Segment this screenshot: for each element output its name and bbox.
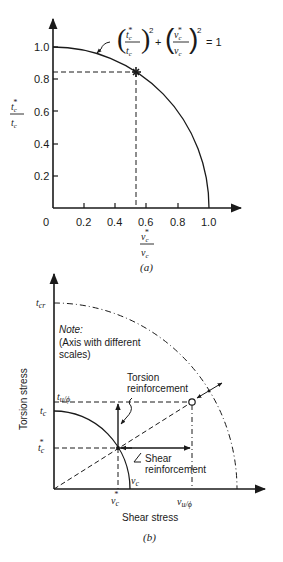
- torsion-annotation-line-2: reinforcement: [127, 383, 188, 394]
- caption-a: (a): [140, 261, 153, 274]
- y-axis-title-b: Torsion stress: [18, 368, 29, 430]
- interaction-curve-a: [53, 47, 209, 208]
- equation: ( tc* tc ) 2 + ( vc* vc ) 2 = 1: [117, 23, 222, 58]
- t-cr-label: tcr: [36, 297, 46, 310]
- torsion-annotation-line-1: Torsion: [127, 372, 159, 383]
- svg-text:tc*: tc*: [38, 438, 45, 455]
- svg-text:tu/ϕ: tu/ϕ: [57, 391, 70, 404]
- target-point: [189, 399, 195, 405]
- v-u-phi-label: vu/ϕ: [177, 496, 192, 509]
- v-c-star-label: vc*: [111, 490, 119, 508]
- t-c-label: tc: [40, 405, 47, 418]
- shear-leader: [134, 453, 141, 462]
- y-tick-label: 1.0: [34, 41, 49, 53]
- x-tick-label: 0.8: [170, 216, 185, 228]
- x-axis-title-b: Shear stress: [122, 512, 178, 523]
- v-c-label: vc: [131, 475, 139, 488]
- svg-text:+: +: [155, 36, 161, 48]
- shear-annotation-line-2: reinforcement: [145, 464, 206, 475]
- caption-b: (b): [143, 531, 156, 544]
- chart-a: 1.0 0.8 0.6 0.4 0.2 0 0.2 0.4 0.6 0.8 1.…: [10, 19, 241, 274]
- svg-text:vc*: vc*: [174, 26, 182, 42]
- svg-text:vc: vc: [141, 247, 149, 260]
- x-tick-label: 0.4: [107, 216, 122, 228]
- svg-text:tc: tc: [40, 405, 47, 418]
- note-line-1: (Axis with different: [59, 337, 141, 348]
- svg-text:2: 2: [197, 26, 202, 35]
- svg-text:vc*: vc*: [111, 490, 119, 508]
- svg-text:vc: vc: [174, 45, 182, 58]
- x-tick-label: 0.6: [138, 216, 153, 228]
- svg-text:tc*: tc*: [11, 98, 18, 114]
- svg-text:= 1: = 1: [206, 36, 222, 48]
- x-tick-label: 0: [43, 216, 49, 228]
- figure: 1.0 0.8 0.6 0.4 0.2 0 0.2 0.4 0.6 0.8 1.…: [0, 0, 283, 562]
- y-tick-label: 0.8: [34, 73, 49, 85]
- star-marker: [132, 67, 141, 77]
- svg-text:tcr: tcr: [36, 297, 46, 310]
- chart-b: tcr tu/ϕ tc tc* vc* vc vu/ϕ Note: (Axis …: [18, 274, 265, 544]
- t-u-phi-label: tu/ϕ: [57, 391, 70, 404]
- x-axis-label-a: vc* vc: [140, 228, 154, 260]
- svg-text:vu/ϕ: vu/ϕ: [177, 496, 192, 509]
- y-tick-label: 0.2: [34, 170, 49, 182]
- y-axis-label-a: tc* tc: [10, 98, 24, 130]
- arc-point: [208, 390, 211, 393]
- note-title: Note:: [59, 324, 83, 335]
- svg-text:tc*: tc*: [126, 26, 133, 42]
- intersection-point: [116, 446, 120, 450]
- svg-text:tc: tc: [11, 117, 18, 130]
- equation-leader: [97, 42, 110, 53]
- x-tick-label: 1.0: [201, 216, 216, 228]
- y-tick-label: 0.6: [34, 106, 49, 118]
- svg-text:vc*: vc*: [141, 228, 149, 244]
- t-c-star-label: tc*: [38, 438, 45, 455]
- y-tick-label: 0.4: [34, 138, 49, 150]
- svg-text:(: (: [117, 23, 126, 54]
- svg-text:2: 2: [149, 26, 154, 35]
- note-line-2: scales): [59, 349, 91, 360]
- svg-text:tc: tc: [126, 45, 133, 58]
- load-path-diagonal: [54, 402, 192, 489]
- shear-annotation-line-1: Shear: [145, 453, 172, 464]
- x-tick-label: 0.2: [76, 216, 91, 228]
- svg-text:vc: vc: [131, 475, 139, 488]
